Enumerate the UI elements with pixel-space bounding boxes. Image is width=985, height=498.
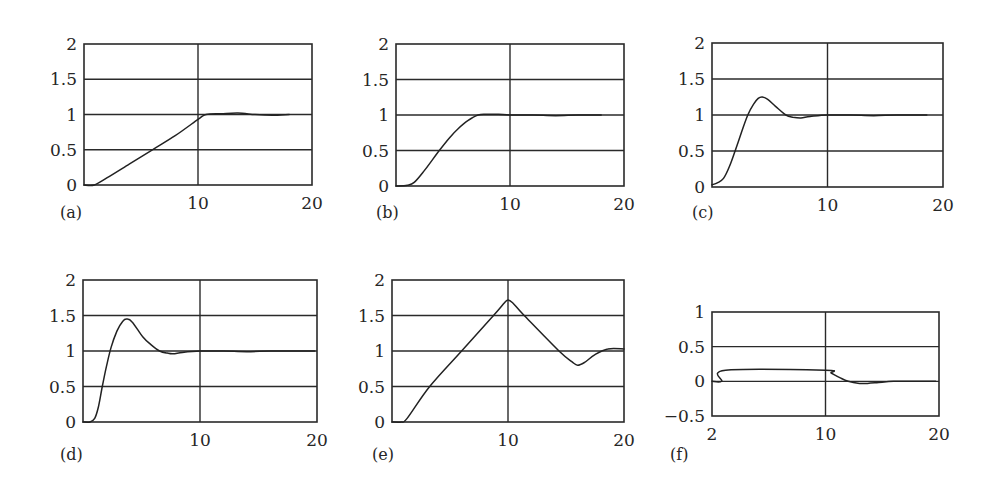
- panel-label: (c): [692, 203, 713, 222]
- y-tick-label: 0: [694, 371, 705, 391]
- y-tick-label: 0.5: [678, 337, 705, 357]
- y-tick-label: 0.5: [358, 377, 385, 397]
- y-tick-label: 1.5: [358, 306, 385, 326]
- x-tick-label: 10: [815, 424, 837, 444]
- y-tick-label: 1: [378, 105, 389, 125]
- x-tick-label: 20: [932, 195, 954, 215]
- y-tick-label: 0: [694, 177, 705, 197]
- x-tick-label: 20: [306, 430, 328, 450]
- y-tick-label: 2: [694, 33, 705, 53]
- y-tick-label: 2: [66, 34, 77, 54]
- panel-label: (d): [60, 445, 83, 464]
- x-tick-label: 20: [613, 430, 635, 450]
- panel-a: 00.511.521020(a): [50, 34, 323, 222]
- y-tick-label: 1: [65, 341, 76, 361]
- panel-b: 00.511.521020(b): [362, 34, 635, 222]
- x-tick-label: 10: [187, 193, 209, 213]
- y-tick-label: 1: [66, 105, 77, 125]
- panel-label: (f): [670, 445, 688, 464]
- x-tick-label: 20: [301, 193, 323, 213]
- x-tick-label: 10: [189, 430, 211, 450]
- x-tick-label: 20: [613, 194, 635, 214]
- y-tick-label: 2: [65, 270, 76, 290]
- y-tick-label: 0.5: [678, 141, 705, 161]
- figure-six-panel-responses: 00.511.521020(a)00.511.521020(b)00.511.5…: [0, 0, 985, 498]
- y-tick-label: 1.5: [49, 306, 76, 326]
- y-tick-label: 2: [374, 270, 385, 290]
- y-tick-label: 0.5: [49, 377, 76, 397]
- panel-label: (a): [60, 203, 82, 222]
- y-tick-label: 1.5: [678, 69, 705, 89]
- panel-f: −0.500.5121020(f): [664, 302, 950, 464]
- y-tick-label: −0.5: [664, 406, 705, 426]
- x-tick-label: 20: [928, 424, 950, 444]
- x-tick-label: 10: [817, 195, 839, 215]
- x-tick-label: 10: [499, 194, 521, 214]
- y-tick-label: 0: [374, 412, 385, 432]
- y-tick-label: 0: [66, 175, 77, 195]
- series-line-response: [83, 319, 315, 422]
- x-tick-label: 10: [497, 430, 519, 450]
- y-tick-label: 0.5: [50, 140, 77, 160]
- y-tick-label: 0: [378, 176, 389, 196]
- y-tick-label: 0.5: [362, 141, 389, 161]
- y-tick-label: 1: [694, 302, 705, 322]
- y-tick-label: 2: [378, 34, 389, 54]
- y-tick-label: 1: [374, 341, 385, 361]
- x-tick-label: 2: [707, 424, 718, 444]
- panel-d: 00.511.521020(d): [49, 270, 328, 464]
- panel-label: (e): [372, 445, 394, 464]
- series-line-response: [712, 97, 927, 185]
- y-tick-label: 1: [694, 105, 705, 125]
- panel-label: (b): [376, 203, 399, 222]
- y-tick-label: 0: [65, 412, 76, 432]
- panel-e: 00.511.521020(e): [358, 270, 635, 464]
- y-tick-label: 1.5: [50, 69, 77, 89]
- panel-c: 00.511.521020(c): [678, 33, 954, 222]
- y-tick-label: 1.5: [362, 70, 389, 90]
